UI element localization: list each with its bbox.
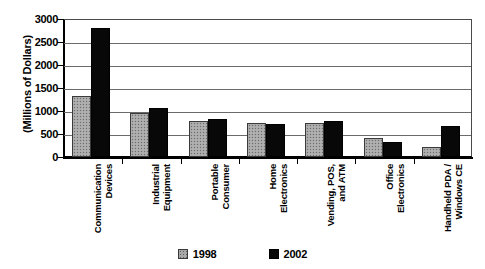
bar-1998-1 [72,96,91,157]
bar-group [130,19,168,157]
bar-group [422,19,460,157]
x-axis-category-label-text: HomeElectronics [268,164,289,252]
bar-1998-4 [247,123,266,157]
x-axis-category-label-text: IndustrialEquipment [151,164,172,252]
y-axis-tick-mark [57,88,64,89]
x-axis-category-label-line: and ATM [337,164,348,252]
bar-2002-6 [383,142,402,157]
x-axis-category-label-line: Electronics [278,164,289,252]
gray-stippled-swatch [178,249,188,259]
x-axis-tick-mark [239,159,240,164]
x-axis-category-label-text: Vending, POS,and ATM [326,164,347,252]
x-axis-category-label-line: Portable [210,164,221,252]
y-axis-tick-labels: 050010001500200025003000 [20,12,58,160]
x-axis-category-label: HomeElectronics [239,164,297,252]
y-axis-tick-label: 1500 [20,83,58,94]
bar-group [364,19,402,157]
x-axis-category-label-line: Electronics [395,164,406,252]
legend-item-label: 1998 [193,248,217,260]
bar-1998-7 [422,147,441,157]
x-axis-line [63,157,473,159]
bar-chart: (Millions of Dollars) 050010001500200025… [0,0,485,269]
x-axis-category-label-text: OfficeElectronics [385,164,406,252]
y-axis-tick-label: 3000 [20,14,58,25]
y-axis-tick-label: 2000 [20,60,58,71]
bar-2002-5 [324,121,343,157]
bars-layer [64,19,472,157]
x-axis-category-label: IndustrialEquipment [122,164,180,252]
x-axis-tick-mark [414,159,415,164]
bar-group [72,19,110,157]
bar-1998-3 [189,121,208,157]
x-axis-tick-mark [181,159,182,164]
x-axis-category-label: Vending, POS,and ATM [297,164,355,252]
bar-1998-6 [364,138,383,157]
x-axis-category-label-line: Consumer [220,164,231,252]
bar-2002-2 [149,108,168,157]
x-axis-category-label-line: Devices [104,164,115,252]
y-axis-tick-mark [57,134,64,135]
x-axis-category-label-text: CommunicationDevices [93,164,114,252]
chart-legend: 19982002 [0,248,485,260]
bar-2002-4 [266,124,285,157]
bar-group [305,19,343,157]
y-axis-tick-label: 500 [20,129,58,140]
x-axis-category-label: Handheld PDA /Windows CE [414,164,472,252]
black-swatch [269,249,279,259]
x-axis-tick-mark [297,159,298,164]
legend-item-label: 2002 [284,248,308,260]
x-axis-tick-mark [122,159,123,164]
bar-2002-3 [208,119,227,157]
x-axis-category-label-line: Office [385,164,396,252]
bar-group [247,19,285,157]
x-axis-category-label: OfficeElectronics [355,164,413,252]
y-axis-tick-mark [57,111,64,112]
bar-2002-1 [91,28,110,157]
x-axis-category-label-line: Equipment [162,164,173,252]
x-axis-category-labels: CommunicationDevicesIndustrialEquipmentP… [64,164,472,252]
x-axis-category-label-line: Windows CE [453,164,464,252]
bar-1998-2 [130,113,149,157]
x-axis-category-label-line: Handheld PDA / [443,164,454,252]
x-axis-category-label: CommunicationDevices [64,164,122,252]
y-axis-tick-mark [57,157,64,158]
y-axis-tick-mark [57,42,64,43]
legend-item-2002[interactable]: 2002 [269,248,308,260]
y-axis-tick-mark [57,19,64,20]
bar-2002-7 [441,126,460,157]
x-axis-tick-mark [355,159,356,164]
x-axis-category-label-line: Home [268,164,279,252]
x-axis-category-label-text: PortableConsumer [210,164,231,252]
y-axis-tick-label: 0 [20,152,58,163]
bar-group [189,19,227,157]
y-axis-tick-mark [57,65,64,66]
bar-1998-5 [305,123,324,157]
y-axis-tick-label: 1000 [20,106,58,117]
legend-item-1998[interactable]: 1998 [178,248,217,260]
x-axis-category-label: PortableConsumer [181,164,239,252]
x-axis-category-label-text: Handheld PDA /Windows CE [443,164,464,252]
y-axis-tick-label: 2500 [20,37,58,48]
